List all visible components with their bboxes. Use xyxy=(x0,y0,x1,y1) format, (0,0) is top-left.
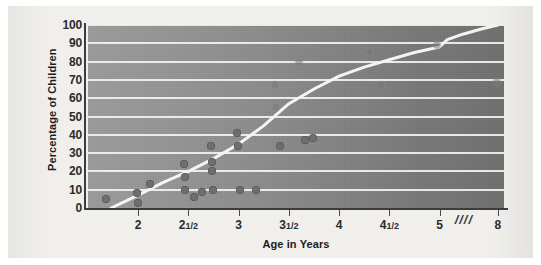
data-point xyxy=(378,82,385,89)
gridline xyxy=(88,79,504,81)
data-point xyxy=(272,104,279,111)
gridline xyxy=(88,170,504,172)
x-tick-label: 8 xyxy=(494,219,501,231)
x-tick xyxy=(289,210,290,216)
data-point xyxy=(236,186,244,194)
data-point xyxy=(209,186,217,194)
gridline xyxy=(88,134,504,136)
data-point xyxy=(134,199,142,207)
data-point xyxy=(301,136,309,144)
data-point xyxy=(234,142,242,150)
plot-area xyxy=(88,25,504,208)
x-tick-label: 41/2 xyxy=(380,219,399,231)
data-point xyxy=(295,58,302,65)
x-tick-label: 5 xyxy=(436,219,443,231)
data-point xyxy=(233,129,241,137)
gridline xyxy=(88,42,504,44)
data-point xyxy=(208,158,216,166)
data-point xyxy=(271,82,278,89)
x-tick xyxy=(498,210,499,216)
y-tick-label: 40 xyxy=(54,129,82,141)
x-axis-line xyxy=(84,208,508,210)
gridline xyxy=(88,189,504,191)
data-point xyxy=(190,193,198,201)
x-tick-label: 2 xyxy=(135,219,142,231)
chart-figure: Percentage of Children 01020304050607080… xyxy=(0,0,541,265)
data-point xyxy=(493,78,500,85)
data-point xyxy=(309,134,317,142)
data-point xyxy=(276,142,284,150)
x-tick-label: 3 xyxy=(235,219,242,231)
x-tick xyxy=(239,210,240,216)
x-tick-label: 21/2 xyxy=(179,219,198,231)
x-tick xyxy=(339,210,340,216)
gridline xyxy=(88,116,504,118)
x-tick-label: 31/2 xyxy=(279,219,298,231)
gridline xyxy=(88,97,504,99)
data-point xyxy=(102,195,110,203)
data-point xyxy=(198,188,206,196)
data-point xyxy=(433,42,440,49)
axis-break-icon: //// xyxy=(455,212,473,227)
y-tick-label: 0 xyxy=(54,202,82,214)
data-point xyxy=(208,167,216,175)
y-tick-label: 30 xyxy=(54,147,82,159)
data-point xyxy=(207,142,215,150)
x-tick xyxy=(188,210,189,216)
y-tick-label: 10 xyxy=(54,184,82,196)
x-tick-label: 4 xyxy=(336,219,343,231)
gridline xyxy=(88,152,504,154)
y-tick-label: 50 xyxy=(54,111,82,123)
gridline xyxy=(88,25,504,26)
data-point xyxy=(180,160,188,168)
data-point xyxy=(366,49,373,56)
y-axis-line xyxy=(84,23,86,210)
x-tick xyxy=(389,210,390,216)
x-axis-title: Age in Years xyxy=(88,238,504,250)
y-tick-label: 80 xyxy=(54,56,82,68)
x-tick xyxy=(138,210,139,216)
y-tick-label: 60 xyxy=(54,92,82,104)
data-point xyxy=(146,180,154,188)
data-point xyxy=(181,186,189,194)
y-tick-label: 90 xyxy=(54,37,82,49)
y-tick-label: 20 xyxy=(54,165,82,177)
y-tick-label: 70 xyxy=(54,74,82,86)
y-tick-label: 100 xyxy=(54,19,82,31)
data-point xyxy=(181,173,189,181)
x-tick xyxy=(440,210,441,216)
data-point xyxy=(133,189,141,197)
data-point xyxy=(252,186,260,194)
